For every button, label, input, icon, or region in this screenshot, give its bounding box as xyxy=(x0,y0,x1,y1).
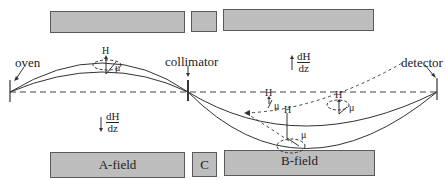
h-label-b3: H xyxy=(335,90,342,100)
trajectory-flipped-down xyxy=(246,113,292,143)
collimator-label: collimator xyxy=(165,55,218,68)
mu-label-b2: μ xyxy=(301,130,306,140)
trajectories-drawing xyxy=(0,0,446,180)
gradient-b-num: dH xyxy=(297,51,310,62)
gradient-a-den: dz xyxy=(106,123,119,134)
gradient-a: dH dz xyxy=(106,111,119,134)
gradient-b: dH dz xyxy=(297,51,310,74)
mu-label-a: μ xyxy=(115,63,120,73)
rabi-apparatus-diagram: A-field C B-field xyxy=(0,0,446,180)
oven-label: oven xyxy=(15,56,40,69)
gradient-b-den: dz xyxy=(297,63,310,74)
gradient-a-num: dH xyxy=(106,111,119,122)
trajectory-shallow-b xyxy=(188,92,437,126)
detector-label: detector xyxy=(401,56,443,69)
mu-label-b1: μ xyxy=(274,101,279,111)
h-label-b2: H xyxy=(284,105,291,115)
trajectory-lower-a xyxy=(10,72,188,92)
trajectory-deep-b xyxy=(188,92,437,149)
h-label-b1: H xyxy=(265,88,272,98)
mu-label-b3: μ xyxy=(349,103,354,113)
h-label-a: H xyxy=(102,46,109,56)
